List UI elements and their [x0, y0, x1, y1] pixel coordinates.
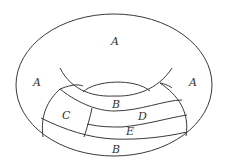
torus-diagram: A A A B C D E B	[0, 0, 227, 168]
band-line-1	[60, 89, 182, 111]
region-label-c: C	[62, 109, 71, 122]
region-label-a-top: A	[110, 35, 119, 48]
divider-c-de	[84, 108, 92, 137]
region-label-e: E	[125, 125, 134, 138]
region-label-a-left: A	[32, 76, 41, 89]
torus-figure: A A A B C D E B	[0, 0, 227, 168]
hole-lower-arc	[83, 82, 150, 92]
region-label-a-right: A	[188, 76, 197, 89]
band-line-2	[87, 115, 187, 127]
region-label-d: D	[137, 110, 147, 123]
patch-right-edge	[160, 83, 187, 136]
region-label-b-lower: B	[111, 143, 120, 156]
patch-left-edge	[42, 89, 60, 137]
region-label-b-upper: B	[111, 98, 120, 111]
